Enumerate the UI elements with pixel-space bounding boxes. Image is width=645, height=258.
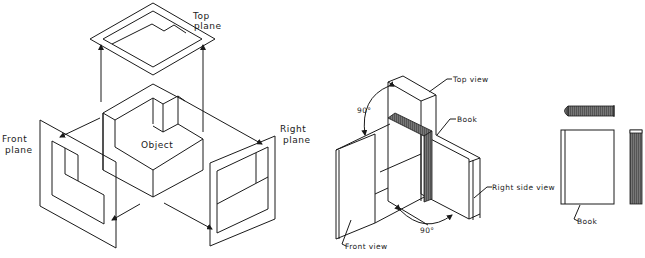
front-plane-label-line2: plane xyxy=(5,145,32,155)
projection-arrow-right-upper xyxy=(185,101,262,144)
front-plane xyxy=(40,120,116,248)
top-view-label: Top view xyxy=(452,75,489,84)
right-plane-label-line2: plane xyxy=(283,135,310,145)
right-plane xyxy=(210,136,275,246)
leader-right-side-view xyxy=(474,187,492,198)
ortho-book-label: Book xyxy=(577,217,598,226)
book-spine xyxy=(424,131,432,202)
orthographic-projection-diagram: Object Top plane Front plane Right plane xyxy=(0,0,645,258)
projection-arrow-right-lower xyxy=(164,203,212,229)
angle-upper-label: 90° xyxy=(357,106,372,115)
front-plane-label-line1: Front xyxy=(2,134,27,144)
book-projection-figure: Top view Book Right side view Front view… xyxy=(336,75,555,251)
book-top-view xyxy=(565,106,615,116)
front-view-label: Front view xyxy=(345,242,388,251)
book-top-edge xyxy=(388,113,432,136)
right-side-view-label: Right side view xyxy=(492,183,555,192)
object-label: Object xyxy=(141,140,173,150)
book-front-view xyxy=(561,130,614,204)
angle-lower-label: 90° xyxy=(420,226,435,235)
right-plane-label-line1: Right xyxy=(280,124,306,134)
projection-arrow-front-upper xyxy=(60,118,100,137)
left-figure: Object Top plane Front plane Right plane xyxy=(2,3,310,248)
book-side-view xyxy=(630,130,642,204)
book-label: Book xyxy=(457,115,478,124)
leader-top-view xyxy=(429,79,452,92)
angle-arc-lower xyxy=(400,210,452,224)
top-plane-label-line1: Top xyxy=(192,11,210,21)
orthographic-views: Book xyxy=(561,105,642,226)
leader-book xyxy=(437,119,456,135)
top-plane-label-line2: plane xyxy=(194,21,221,31)
